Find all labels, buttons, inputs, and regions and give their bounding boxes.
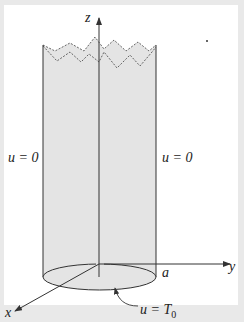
stray-dot [206,40,208,42]
right-boundary-text: u = 0 [162,150,192,165]
base-condition-var: u = [140,302,160,317]
diagram-canvas: z y x u = 0 u = 0 a u = T0 [0,0,244,322]
base-pointer-arrow [115,288,138,306]
left-boundary-label: u = 0 [8,151,38,165]
z-axis-label: z [85,11,90,25]
base-condition-label: u = T0 [140,303,176,320]
base-condition-subscript: 0 [171,309,176,320]
y-axis-label: y [229,260,235,274]
right-boundary-label: u = 0 [162,151,192,165]
x-axis-label: x [5,306,11,320]
left-boundary-text: u = 0 [8,150,38,165]
radius-label: a [162,266,169,280]
